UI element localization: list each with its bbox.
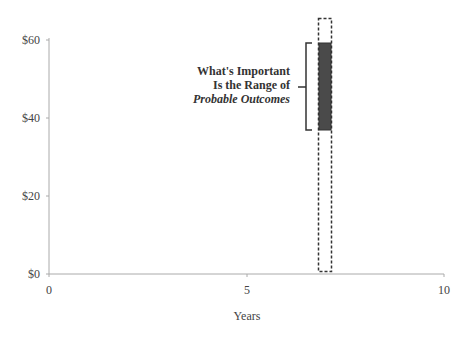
- y-ticks: $60 $40 $20 $0: [22, 33, 49, 281]
- x-tick-label: 10: [438, 283, 450, 297]
- y-tick-label: $0: [28, 267, 40, 281]
- chart-svg: $60 $40 $20 $0 0 5 10 Years What's Impor…: [0, 0, 474, 338]
- annotation-line-2: Is the Range of: [213, 78, 291, 92]
- annotation-line-1: What's Important: [197, 64, 290, 78]
- probable-range-bar: [319, 43, 331, 130]
- range-brace: [298, 43, 312, 130]
- y-tick-label: $40: [22, 111, 40, 125]
- annotation-line-3: Probable Outcomes: [193, 92, 290, 106]
- x-axis-label: Years: [234, 309, 261, 323]
- x-ticks: 0 5 10: [46, 274, 450, 297]
- y-tick-label: $20: [22, 189, 40, 203]
- annotation: What's Important Is the Range of Probabl…: [193, 64, 291, 106]
- y-tick-label: $60: [22, 33, 40, 47]
- x-tick-label: 5: [244, 283, 250, 297]
- x-tick-label: 0: [46, 283, 52, 297]
